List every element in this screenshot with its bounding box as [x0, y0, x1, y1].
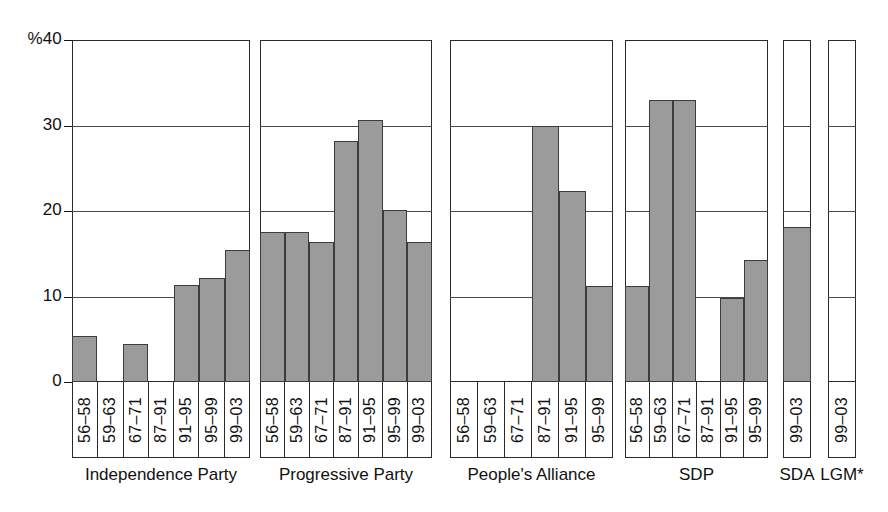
bar[interactable] [260, 232, 285, 382]
bar[interactable] [309, 242, 334, 382]
bar[interactable] [559, 191, 586, 382]
x-axis-tick-label-cell: 59–63 [478, 382, 505, 457]
bar[interactable] [285, 232, 310, 382]
x-axis-tick-label: 95–99 [590, 397, 608, 443]
bar-slot [559, 40, 586, 382]
bar-series [783, 40, 811, 382]
x-axis-tick-label: 87–91 [152, 397, 170, 443]
x-axis-tick-label: 87–91 [536, 397, 554, 443]
x-axis-tick-label: 91–95 [361, 397, 379, 443]
x-axis-tick-label: 56–58 [628, 397, 646, 443]
x-axis-tick-label: 99–03 [833, 397, 851, 443]
chart-panel [828, 40, 856, 382]
bar[interactable] [225, 250, 250, 382]
x-axis-tick-label: 99–03 [788, 397, 806, 443]
x-axis-tick-label-cell: 59–63 [285, 382, 309, 457]
bar[interactable] [744, 260, 768, 382]
bar[interactable] [334, 141, 359, 382]
bar[interactable] [407, 242, 432, 382]
x-axis-tick-label-cell: 87–91 [532, 382, 559, 457]
x-axis-tick-label-cell: 67–71 [505, 382, 532, 457]
bar-slot [97, 40, 122, 382]
x-axis-tick-label-cell: 56–58 [73, 382, 98, 457]
x-axis-tick-label: 67–71 [313, 397, 331, 443]
x-axis-tick-label: 99–03 [410, 397, 428, 443]
bar-slot [123, 40, 148, 382]
bar-slot [783, 40, 811, 382]
bar-series [260, 40, 432, 382]
bar-slot [649, 40, 673, 382]
bar[interactable] [586, 286, 613, 382]
x-axis-tick-label-cell: 91–95 [721, 382, 745, 457]
chart-panel [450, 40, 613, 382]
x-axis-tick-box: 56–5859–6367–7187–9191–9595–99 [625, 382, 768, 458]
x-axis-tick-label-cell: 56–58 [626, 382, 650, 457]
x-axis-tick-label: 95–99 [386, 397, 404, 443]
x-axis-tick-label: 56–58 [455, 397, 473, 443]
x-axis-tick-box: 56–5859–6367–7187–9191–9595–9999–03 [260, 382, 432, 458]
chart-panel [783, 40, 811, 382]
bar[interactable] [174, 285, 199, 382]
x-axis-tick-label: 67–71 [676, 397, 694, 443]
x-axis-tick-label: 87–91 [337, 397, 355, 443]
bar-slot [450, 40, 477, 382]
chart-panel [625, 40, 768, 382]
bar-slot [625, 40, 649, 382]
y-axis-tick-label: 20 [0, 200, 62, 220]
bar-slot [477, 40, 504, 382]
x-axis-tick-label-cell: 91–95 [559, 382, 586, 457]
x-axis-tick-label-cell: 56–58 [451, 382, 478, 457]
x-axis-tick-label: 91–95 [563, 397, 581, 443]
x-axis-tick-label-cell: 59–63 [98, 382, 123, 457]
bar[interactable] [625, 286, 649, 382]
x-axis-tick-label: 59–63 [652, 397, 670, 443]
y-axis-tick-label: 30 [0, 115, 62, 135]
bar[interactable] [673, 100, 697, 382]
bar[interactable] [783, 227, 811, 382]
y-axis-tick-label: 0 [0, 371, 62, 391]
bar-slot [828, 40, 856, 382]
bar[interactable] [532, 126, 559, 383]
bar-series [450, 40, 613, 382]
bar-slot [225, 40, 250, 382]
bar[interactable] [123, 344, 148, 382]
x-axis-tick-box: 56–5859–6367–7187–9191–9595–9999–03 [72, 382, 250, 458]
x-axis-tick-label-cell: 95–99 [199, 382, 224, 457]
x-axis-tick-label-cell: 95–99 [383, 382, 407, 457]
bar[interactable] [649, 100, 673, 382]
x-axis-tick-label-cell: 67–71 [124, 382, 149, 457]
bar-slot [532, 40, 559, 382]
x-axis-tick-box: 56–5859–6367–7187–9191–9595–99 [450, 382, 613, 458]
bar[interactable] [383, 210, 408, 382]
bar-series [828, 40, 856, 382]
x-axis-tick-box: 99–03 [828, 382, 856, 458]
x-axis-tick-label-cell: 87–91 [334, 382, 358, 457]
x-axis-tick-label: 95–99 [203, 397, 221, 443]
x-axis-tick-label-cell: 56–58 [261, 382, 285, 457]
bar[interactable] [720, 298, 744, 382]
bar-slot [744, 40, 768, 382]
bar[interactable] [358, 120, 383, 382]
x-axis-tick-label: 67–71 [509, 397, 527, 443]
bar[interactable] [72, 336, 97, 382]
bar-slot [260, 40, 285, 382]
bar-slot [148, 40, 173, 382]
x-axis-tick-label: 91–95 [723, 397, 741, 443]
x-axis-tick-label-cell: 99–03 [408, 382, 431, 457]
x-axis-tick-label-cell: 91–95 [359, 382, 383, 457]
bar[interactable] [199, 278, 224, 382]
bar-slot [586, 40, 613, 382]
x-axis-tick-label-cell: 59–63 [650, 382, 674, 457]
x-axis-tick-label-cell: 99–03 [784, 382, 810, 457]
x-axis-tick-label: 99–03 [228, 397, 246, 443]
bar-slot [199, 40, 224, 382]
bar-slot [334, 40, 359, 382]
x-axis-tick-label: 95–99 [747, 397, 765, 443]
x-axis-tick-label: 56–58 [76, 397, 94, 443]
chart-panel [260, 40, 432, 382]
bar-slot [696, 40, 720, 382]
bar-slot [407, 40, 432, 382]
bar-slot [383, 40, 408, 382]
x-axis-tick-label-cell: 87–91 [697, 382, 721, 457]
x-axis-tick-label-cell: 87–91 [149, 382, 174, 457]
